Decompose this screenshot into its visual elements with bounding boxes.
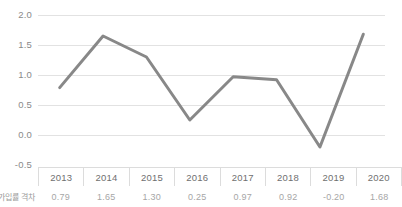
table-cell-value: 1.68 [357,186,402,207]
table-column-header: 2013 [38,167,83,186]
table-column-header: 2019 [310,167,355,186]
table-column-header: 2017 [220,167,265,186]
table-cell-value: 0.79 [38,186,84,207]
table-column-header: 2020 [356,167,402,186]
table-cell-value: 0.25 [175,186,221,207]
table-cell-value: 1.65 [84,186,130,207]
series-row-label: 가입률 격차 [0,186,38,207]
table-column-header: 2016 [174,167,219,186]
data-table-year-row: 2013 2014 2015 2016 2017 2018 2019 2020 [0,167,402,186]
plot-area: 2.0 1.5 1.0 0.5 0.0 -0.5 [0,0,402,168]
year-row-spacer [0,167,38,186]
data-table: 2013 2014 2015 2016 2017 2018 2019 2020 … [0,167,402,207]
table-column-header: 2014 [83,167,128,186]
data-table-value-row: 가입률 격차 0.79 1.65 1.30 0.25 0.97 0.92 -0.… [0,186,402,207]
table-cell-value: 1.30 [129,186,175,207]
line-series-path [60,34,364,147]
table-column-header: 2018 [265,167,310,186]
table-cell-value: 0.92 [266,186,312,207]
chart-screenshot: 2.0 1.5 1.0 0.5 0.0 -0.5 2013 2014 2015 … [0,0,402,207]
line-series-svg [0,0,402,168]
table-cell-value: -0.20 [311,186,357,207]
table-column-header: 2015 [129,167,174,186]
table-cell-value: 0.97 [220,186,266,207]
